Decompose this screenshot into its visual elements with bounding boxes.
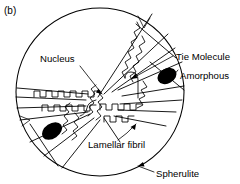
amorphous-regions-group (39, 65, 180, 144)
rim-chevron-marks (20, 16, 150, 126)
figure-panel: (b) (0, 0, 240, 184)
wedge-line-ur1 (98, 14, 152, 97)
wedge-line-r3 (120, 100, 182, 104)
wedge-line-l3 (17, 106, 86, 108)
panel-label: (b) (4, 5, 16, 16)
arrowhead-nucleus (96, 89, 102, 95)
fibril-ll-a (62, 103, 70, 134)
wedge-line-r4 (118, 110, 176, 112)
label-lamellar-fibril: Lamellar fibril (88, 139, 145, 150)
fibril-ur-a (122, 22, 140, 78)
arrowhead-spherulite (138, 162, 145, 167)
lamellar-fibrils-group (34, 22, 147, 140)
label-spherulite: Spherulite (156, 168, 199, 179)
leader-spherulite (138, 166, 154, 172)
label-nucleus: Nucleus (40, 53, 75, 64)
amorphous-region-left (39, 119, 66, 144)
spherulite-diagram: (b) (0, 0, 240, 184)
wedge-line-r1 (122, 86, 184, 96)
fibril-c-row1 (100, 104, 142, 110)
label-tie-molecule: Tie Molecule (176, 51, 230, 62)
wedge-line-l1 (17, 88, 88, 94)
fibril-ll-b (72, 113, 79, 140)
wedge-line-l2 (16, 97, 86, 100)
label-amorphous: Amorphous (180, 70, 229, 81)
fibril-center-diag2 (96, 93, 103, 120)
